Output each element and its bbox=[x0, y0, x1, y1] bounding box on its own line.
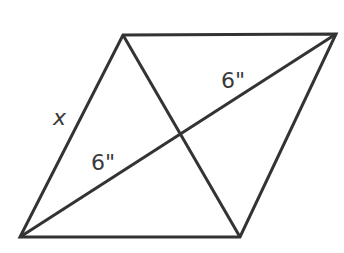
diagonal-upper-length-label: 6" bbox=[221, 70, 245, 92]
diagonal-short bbox=[123, 35, 240, 237]
diagram-canvas: x 6" 6" bbox=[0, 0, 344, 253]
side-label-x: x bbox=[53, 107, 66, 129]
parallelogram-figure bbox=[0, 0, 344, 253]
diagonal-lower-length-label: 6" bbox=[91, 152, 115, 174]
